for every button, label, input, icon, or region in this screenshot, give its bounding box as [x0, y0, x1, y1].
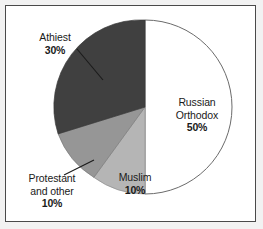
slice-label-protestant-and-other: Protestant and other 10%: [8, 172, 96, 210]
slice-label-russian-orthodox-percent: 50%: [164, 121, 230, 134]
slice-label-athiest: Athiest 30%: [18, 31, 92, 56]
chart-area: Athiest 30% Russian Orthodox 50% Muslim …: [0, 0, 263, 229]
slice-label-russian-orthodox-line1: Russian: [164, 96, 230, 109]
slice-label-muslim-percent: 10%: [107, 184, 163, 197]
slice-label-russian-orthodox-line2: Orthodox: [164, 109, 230, 122]
slice-label-muslim-name: Muslim: [107, 171, 163, 184]
slice-label-athiest-name: Athiest: [18, 31, 92, 44]
slice-label-protestant-percent: 10%: [8, 197, 96, 210]
pie-chart-screenshot: Athiest 30% Russian Orthodox 50% Muslim …: [0, 0, 263, 229]
slice-label-athiest-percent: 30%: [18, 44, 92, 57]
slice-label-russian-orthodox: Russian Orthodox 50%: [164, 96, 230, 134]
slice-label-protestant-line1: Protestant: [8, 172, 96, 185]
slice-label-protestant-line2: and other: [8, 185, 96, 198]
slice-label-muslim: Muslim 10%: [107, 171, 163, 196]
